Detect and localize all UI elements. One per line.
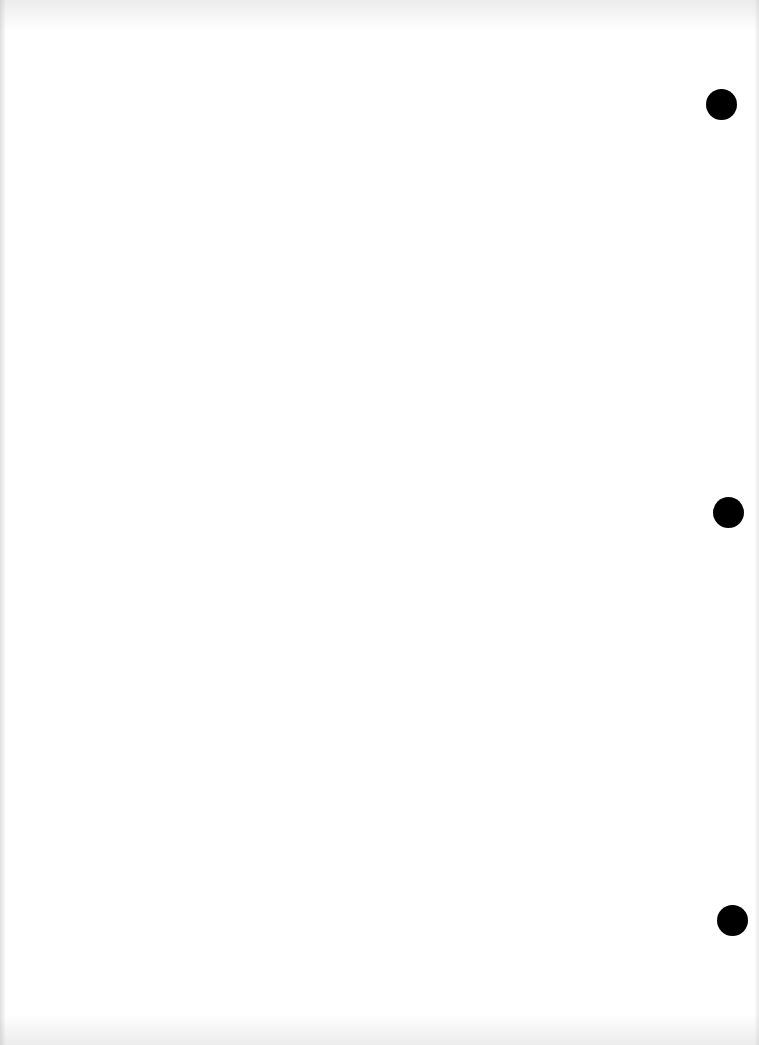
scan-edge-top (0, 0, 759, 30)
punch-hole-bottom (717, 905, 748, 936)
punch-hole-top (706, 89, 737, 120)
punch-hole-middle (713, 497, 744, 528)
blank-page (0, 0, 759, 1045)
scan-edge-left (0, 0, 6, 1045)
scan-edge-right (754, 0, 759, 1045)
scan-edge-bottom (0, 1015, 759, 1045)
